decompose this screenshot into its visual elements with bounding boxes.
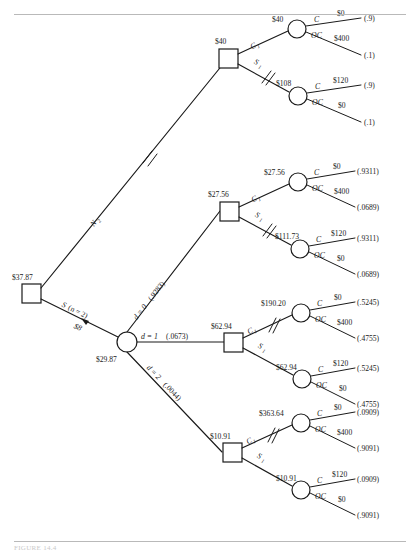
chance-branch-d1-prob: (.0673): [166, 332, 189, 341]
subtree-n2-bot-node-value: $108: [276, 79, 291, 88]
subtree-d2-top-node-value: $363.64: [259, 409, 284, 418]
subtree-n2-bot-out1-payoff: $0: [338, 101, 346, 110]
subtree-d1-top-chance-node: [292, 304, 310, 322]
subtree-d0-bot-out0-label: C: [316, 235, 322, 244]
subtree-d2-bot-node-value: $10.91: [276, 474, 297, 483]
subtree-d2-top-out0-payoff: $0: [334, 403, 342, 412]
subtree-n2-top-out1-prob: (.1): [364, 51, 375, 60]
subtree-d0-bot-node-value: $111.73: [275, 232, 299, 241]
subtree-d1-decision-node: [224, 333, 243, 352]
chance-branch-d0-label: d = 0: [131, 302, 149, 321]
branch-n2: N 2: [41, 58, 228, 288]
chance-branch-d2-label: d = 2: [145, 363, 163, 382]
subtree-n2-decision-value: $40: [215, 37, 227, 46]
subtree-n2-bot-out0-label: C: [315, 82, 321, 91]
subtree-d0-top-node-value: $27.56: [264, 168, 285, 177]
subtree-d0-top-chance-node: [289, 173, 307, 191]
branch-survey-cost: $8: [72, 321, 83, 333]
subtree-d1-top-out1-payoff: $400: [337, 318, 352, 327]
subtree-d2-top-out1-label: OC: [315, 425, 327, 434]
subtree-d2-bot-out1-label: OC: [315, 492, 327, 501]
top-divider-rule: [14, 14, 406, 15]
subtree-d0-bot-chance-node: [291, 240, 309, 258]
subtree-d1-top-node-value: $190.20: [261, 299, 286, 308]
subtree-d2-bot-chance-node: [292, 481, 310, 499]
subtree-n2-top-out0-label: C: [314, 15, 320, 24]
subtree-d1-top-out0-label: C: [317, 299, 323, 308]
subtree-n2-bot-out0-payoff: $120: [333, 76, 348, 85]
subtree-d2-top-out1-payoff: $400: [337, 428, 352, 437]
subtree-d0: $27.56 C 1 $27.56 C $0 (.9311) OC $400 (…: [208, 162, 380, 279]
subtree-n2: $40 C 1 $40 C $0 (.9) OC $400 (.1) S 1: [215, 9, 375, 127]
subtree-d0-bot-out0-payoff: $120: [331, 229, 346, 238]
subtree-d2-top-out1-prob: (.9091): [357, 444, 380, 453]
subtree-d0-bot-out1-payoff: $0: [337, 254, 345, 263]
subtree-d2-bot-out0-prob: (.0909): [357, 475, 380, 484]
subtree-n2-top-out0-prob: (.9): [364, 14, 375, 23]
subtree-d0-top-out1-prob: (.0689): [357, 203, 380, 212]
subtree-d1-bot-out0-prob: (.5245): [357, 364, 380, 373]
chance-branch-d1-label: d = 1: [141, 332, 158, 341]
subtree-n2-bot-out1-prob: (.1): [364, 118, 375, 127]
subtree-d0-top-out0-label: C: [314, 168, 320, 177]
subtree-d0-decision-node: [220, 202, 239, 221]
subtree-d2-bot-out1-prob: (.9091): [357, 511, 380, 520]
subtree-n2-top-chance-node: [288, 20, 306, 38]
subtree-d0-bot-label-sub: 1: [258, 217, 263, 224]
subtree-d0-bot-out1-label: OC: [314, 251, 326, 260]
subtree-n2-bot-chance-node: [289, 87, 307, 105]
chance-node-value: $29.87: [96, 355, 117, 364]
subtree-d0-top-out0-payoff: $0: [333, 162, 341, 171]
subtree-d1-top-out0-prob: (.5245): [357, 298, 380, 307]
subtree-d2-bot-label-sub: 1: [260, 458, 265, 465]
subtree-d1-bot-out1-payoff: $0: [339, 384, 347, 393]
chance-branch-d1: d = 1 (.0673): [137, 332, 224, 342]
decision-tree-diagram: $37.87 N 2 S (n = 2) $8: [0, 0, 420, 557]
subtree-d1-bot-node-value: $62.94: [276, 363, 297, 372]
subtree-d2-top-out0-prob: (.0909): [357, 408, 380, 417]
subtree-d1-decision-value: $62.94: [211, 322, 232, 331]
subtree-d2-bot-out1-payoff: $0: [338, 495, 346, 504]
subtree-d1-top-out1-label: OC: [315, 315, 327, 324]
subtree-d2-decision-node: [223, 443, 242, 462]
figure-caption: FIGURE 14.4: [14, 544, 57, 552]
branch-n2-label-sub: 2: [96, 217, 103, 223]
subtree-d1: $62.94 C 1 $190.20 C $0 (.5245) OC $400 …: [211, 293, 380, 409]
subtree-d2: $10.91 C 1 $363.64 C $0 (.0909) OC $400 …: [210, 403, 380, 520]
chance-branch-d2: d = 2 (.0044): [127, 352, 222, 452]
bottom-divider-rule: [14, 541, 406, 542]
subtree-d0-bot-out0-prob: (.9311): [357, 234, 379, 243]
subtree-n2-bot-out1-label: OC: [312, 98, 324, 107]
subtree-d0-decision-value: $27.56: [208, 190, 229, 199]
subtree-d1-top-out1-prob: (.4755): [357, 334, 380, 343]
chance-branch-d0: d = 0 (.9283): [127, 211, 220, 332]
subtree-d1-bot-chance-node: [293, 370, 311, 388]
subtree-n2-top-out1-payoff: $400: [334, 34, 349, 43]
subtree-d1-top-out0-payoff: $0: [334, 293, 342, 302]
subtree-d0-top-out0-prob: (.9311): [357, 167, 379, 176]
subtree-d0-top-out1-payoff: $400: [334, 187, 349, 196]
subtree-d0-bot-out1-prob: (.0689): [357, 270, 380, 279]
branch-survey-label: S: [60, 300, 68, 310]
subtree-n2-top-out1-label: OC: [311, 31, 323, 40]
subtree-d1-bot-out0-label: C: [318, 365, 324, 374]
subtree-d2-top-chance-node: [292, 414, 310, 432]
decision-tree-figure: $37.87 N 2 S (n = 2) $8: [0, 0, 420, 557]
subtree-n2-bot-label-sub: 1: [257, 64, 262, 71]
root-decision-node: $37.87: [12, 273, 41, 303]
branch-survey: S (n = 2) $8: [41, 299, 118, 337]
subtree-d1-bot-label-sub: 1: [261, 348, 266, 355]
subtree-d2-bot-out0-payoff: $120: [332, 470, 347, 479]
subtree-d2-bot-out0-label: C: [317, 476, 323, 485]
root-node-value: $37.87: [12, 273, 33, 282]
subtree-n2-decision-node: [219, 49, 238, 68]
subtree-d2-decision-value: $10.91: [210, 432, 231, 441]
subtree-d0-top-out1-label: OC: [312, 184, 324, 193]
subtree-d1-bot-out1-label: OC: [316, 381, 328, 390]
subtree-n2-top-node-value: $40: [272, 15, 284, 24]
subtree-n2-bot-out0-prob: (.9): [364, 81, 375, 90]
subtree-d2-top-out0-label: C: [317, 409, 323, 418]
chance-branch-d0-prob: (.9283): [146, 279, 167, 302]
subtree-d1-bot-out0-payoff: $120: [333, 359, 348, 368]
